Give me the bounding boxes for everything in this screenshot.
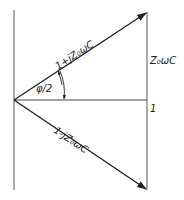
horizontal-side-label: 1 [150,103,156,114]
vertical-side-label: Z₀ωC [149,55,176,66]
angle-arc-arrow-icon [58,71,62,85]
upper-vector-label: 1+jZ₀ωC [53,38,96,71]
lower-vector-label: 1-jZ₀ωC [52,125,91,156]
phasor-diagram: 1+jZ₀ωC 1-jZ₀ωC Z₀ωC 1 φ/2 [0,0,184,200]
angle-label: φ/2 [36,83,52,94]
angle-arc-icon [60,71,64,99]
